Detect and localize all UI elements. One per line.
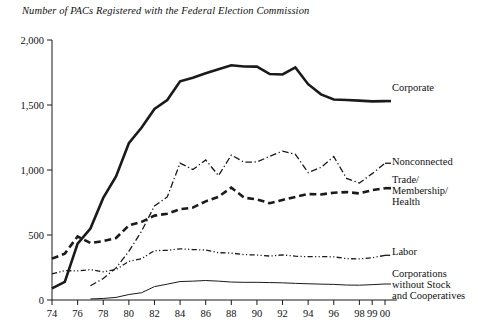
series-line-labor [52, 249, 385, 274]
chart-container: Number of PACs Registered with the Feder… [0, 0, 478, 336]
x-axis-tick-label: 99 [367, 308, 378, 319]
x-axis-tick-label: 78 [98, 308, 109, 319]
x-axis-tick-label: 96 [329, 308, 340, 319]
x-axis-tick-label: 86 [200, 308, 211, 319]
series-label-trade-line1: Trade/ [392, 174, 419, 186]
y-axis-tick-label: 1,000 [20, 165, 44, 176]
y-axis-tick-label: 1,500 [20, 100, 44, 111]
x-axis-tick-label: 74 [47, 308, 58, 319]
x-axis-tick-label: 90 [252, 308, 263, 319]
series-label-trade-line3: Health [392, 196, 420, 208]
series-label-nonconnected: Nonconnected [392, 156, 453, 168]
series-label-corporate: Corporate [392, 82, 434, 94]
x-axis-tick-label: 98 [354, 308, 365, 319]
series-line-nonconnected [90, 151, 385, 286]
x-axis-tick-label: 00 [380, 308, 391, 319]
x-axis-tick-label: 88 [226, 308, 237, 319]
x-axis-tick-label: 94 [303, 308, 314, 319]
y-axis-tick-label: 0 [39, 295, 44, 306]
y-axis-tick-label: 2,000 [20, 35, 44, 46]
series-label-trade-line2: Membership/ [392, 185, 448, 197]
series-label-corp-nostock-line3: and Cooperatives [392, 290, 465, 302]
series-line-corporations-without-stock-and-cooperatives [90, 281, 385, 299]
y-axis-tick-label: 500 [28, 230, 44, 241]
x-axis-tick-label: 80 [124, 308, 135, 319]
series-label-corp-nostock-line1: Corporations [392, 268, 447, 280]
x-axis-tick-label: 84 [175, 308, 186, 319]
x-axis-tick-label: 92 [277, 308, 288, 319]
series-line-corporate [52, 65, 385, 288]
series-label-labor: Labor [392, 246, 417, 258]
x-axis-tick-label: 82 [149, 308, 160, 319]
series-label-corp-nostock-line2: without Stock [392, 279, 451, 291]
x-axis-tick-label: 76 [72, 308, 83, 319]
